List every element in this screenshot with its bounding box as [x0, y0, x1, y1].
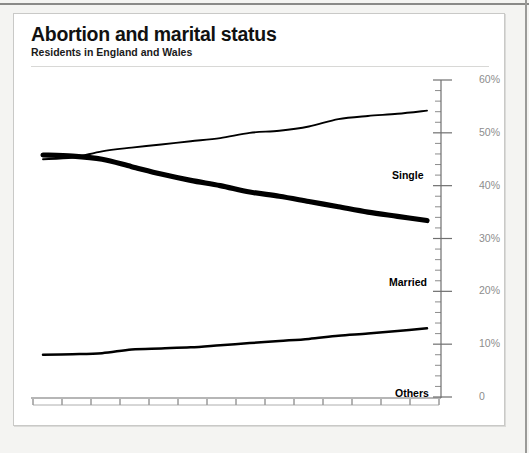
- title-block: Abortion and marital status Residents in…: [31, 24, 471, 59]
- series-label-others: Others: [395, 387, 429, 399]
- frame-top-edge: [0, 3, 529, 5]
- series-line-married: [43, 155, 427, 221]
- series-line-single: [43, 111, 427, 160]
- y-tick-label-20pct: 20%: [479, 284, 500, 296]
- y-tick-label-30pct: 30%: [479, 232, 500, 244]
- y-tick-label-10pct: 10%: [479, 337, 500, 349]
- series-label-married: Married: [389, 276, 427, 288]
- chart-svg: [31, 69, 489, 414]
- y-tick-label-40pct: 40%: [479, 179, 500, 191]
- chart-card: Abortion and marital status Residents in…: [13, 13, 505, 426]
- title-divider: [31, 66, 489, 67]
- series-group: [43, 111, 427, 355]
- y-tick-label-60pct: 60%: [479, 73, 500, 85]
- page-title: Abortion and marital status: [31, 24, 471, 45]
- plot-area: Single Married Others 010%20%30%40%50%60…: [31, 69, 489, 414]
- page-frame: Abortion and marital status Residents in…: [0, 0, 529, 453]
- y-tick-label-50pct: 50%: [479, 126, 500, 138]
- series-line-others: [43, 328, 427, 354]
- axis-group: [31, 80, 452, 405]
- page-subtitle: Residents in England and Wales: [31, 46, 471, 59]
- frame-right-edge: [525, 0, 527, 453]
- y-tick-label-0: 0: [479, 390, 485, 402]
- series-label-single: Single: [392, 169, 424, 181]
